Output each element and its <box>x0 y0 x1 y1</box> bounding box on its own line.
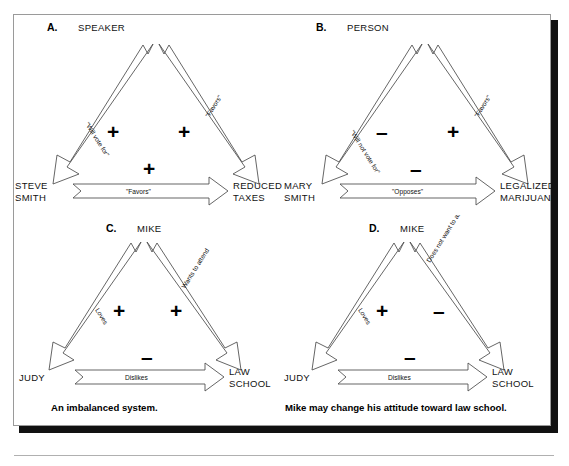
node-left-label-line2: SMITH <box>284 192 315 203</box>
edge-arrow-top-to-right <box>410 242 504 370</box>
node-right-label-line1: REDUCED <box>233 180 282 191</box>
node-right-label-line1: LEGALIZED <box>500 180 551 191</box>
sign-left: + <box>113 299 125 322</box>
panel-c: C. MIKE JUDY LAW SCHOOL Loves Wants to a… <box>13 215 282 421</box>
node-right-label-line1: LAW <box>229 366 250 377</box>
node-right-label-line2: SCHOOL <box>229 378 271 389</box>
node-right-label-line2: MARIJUANA <box>500 192 551 203</box>
edge-label-left: Loves <box>357 307 373 326</box>
panel-letter: B. <box>316 21 327 33</box>
sign-left: + <box>107 120 119 143</box>
edge-arrow-top-to-left <box>312 242 404 370</box>
node-top-label: SPEAKER <box>78 22 125 33</box>
sign-bottom: – <box>141 345 153 368</box>
sign-right: + <box>170 299 182 322</box>
panel-a: A. SPEAKER STEVE SMITH REDUCED TAXES "Wi… <box>13 14 282 220</box>
node-right-label-line2: TAXES <box>233 192 265 203</box>
node-left-label-line1: MARY <box>284 180 313 191</box>
panel-letter: A. <box>47 21 58 33</box>
edge-label-bottom: Dislikes <box>388 374 411 381</box>
sign-right: + <box>447 120 459 143</box>
panel-b-diagram: B. PERSON MARY SMITH LEGALIZED MARIJUANA… <box>282 14 551 220</box>
sign-left: – <box>376 120 388 143</box>
bottom-divider-rule <box>14 455 554 456</box>
panel-caption: Mike may change his attitude toward law … <box>285 402 507 413</box>
sign-right: – <box>433 299 445 322</box>
edge-arrow-top-to-left <box>53 44 153 184</box>
panel-letter: D. <box>369 222 380 234</box>
figure-shadow-bottom <box>19 426 558 433</box>
edge-arrow-top-to-right <box>147 242 241 370</box>
edge-label-right: Does not want to attend <box>425 215 468 264</box>
sign-right: + <box>178 120 190 143</box>
panel-a-diagram: A. SPEAKER STEVE SMITH REDUCED TAXES "Wi… <box>13 14 282 220</box>
edge-label-bottom: Dislikes <box>125 374 148 381</box>
node-right-label-line2: SCHOOL <box>492 378 534 389</box>
panel-d-diagram: D. MIKE JUDY LAW SCHOOL Loves Does not w… <box>282 215 551 421</box>
sign-bottom: + <box>143 157 155 180</box>
edge-label-bottom: "Favors" <box>126 188 151 195</box>
node-left-label-line1: STEVE <box>15 180 48 191</box>
edge-label-right: Wants to attend <box>180 247 210 290</box>
node-left-label-line2: SMITH <box>15 192 46 203</box>
figure-shadow-right <box>551 20 558 432</box>
node-top-label: PERSON <box>347 22 389 33</box>
panel-caption: An imbalanced system. <box>51 402 158 413</box>
panel-letter: C. <box>106 222 117 234</box>
node-left-label-line1: JUDY <box>19 372 45 383</box>
node-top-label: MIKE <box>137 223 161 234</box>
sign-bottom: – <box>410 157 422 180</box>
sign-left: + <box>376 299 388 322</box>
edge-label-left: Loves <box>94 307 110 326</box>
node-right-label-line1: LAW <box>492 366 513 377</box>
panel-c-diagram: C. MIKE JUDY LAW SCHOOL Loves Wants to a… <box>13 215 282 421</box>
edge-label-bottom: "Opposes" <box>392 188 424 196</box>
sign-bottom: – <box>404 345 416 368</box>
panel-b: B. PERSON MARY SMITH LEGALIZED MARIJUANA… <box>282 14 551 220</box>
edge-arrow-top-to-left <box>49 242 141 370</box>
panel-d: D. MIKE JUDY LAW SCHOOL Loves Does not w… <box>282 215 551 421</box>
node-top-label: MIKE <box>400 223 424 234</box>
node-left-label-line1: JUDY <box>284 372 310 383</box>
